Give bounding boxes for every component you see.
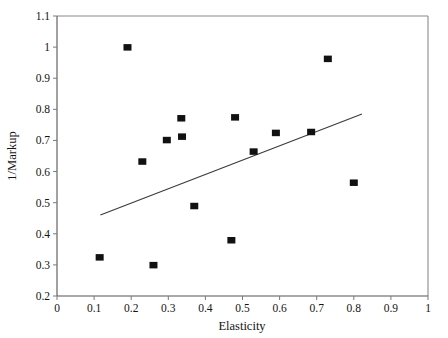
x-tick-label: 0.1 [87, 302, 102, 314]
x-tick-label: 0.9 [384, 302, 399, 314]
x-tick-label: 0.7 [310, 302, 325, 314]
y-tick-label: 0.7 [36, 134, 51, 146]
y-axis-title: 1/Markup [5, 131, 19, 180]
x-tick-label: 0.5 [235, 302, 250, 314]
x-tick-label: 0.2 [124, 302, 139, 314]
data-point-marker [307, 129, 315, 136]
y-tick-label: 0.3 [36, 259, 51, 271]
plot-canvas: 0.20.30.40.50.60.70.80.911.1 00.10.20.30… [0, 0, 448, 338]
x-tick-label: 0.6 [272, 302, 287, 314]
data-point-marker [149, 262, 157, 269]
y-tick-label: 1 [44, 41, 50, 53]
y-axis-ticks: 0.20.30.40.50.60.70.80.911.1 [36, 10, 57, 302]
x-axis-title: Elasticity [218, 319, 266, 333]
data-point-marker [178, 133, 186, 140]
x-tick-label: 1 [425, 302, 431, 314]
data-point-marker [324, 56, 332, 63]
data-point-marker [227, 237, 235, 244]
x-axis-ticks: 00.10.20.30.40.50.60.70.80.91 [54, 296, 431, 314]
x-tick-label: 0.3 [161, 302, 176, 314]
data-markers-group [96, 44, 358, 268]
data-point-marker [123, 44, 131, 51]
y-tick-label: 0.8 [36, 103, 51, 115]
data-point-marker [231, 114, 239, 121]
data-point-marker [190, 203, 198, 210]
data-point-marker [177, 115, 185, 122]
y-tick-label: 0.9 [36, 72, 51, 84]
y-tick-label: 0.6 [36, 166, 51, 178]
data-point-marker [138, 158, 146, 165]
y-tick-label: 1.1 [36, 10, 51, 22]
data-point-marker [163, 137, 171, 144]
plot-frame [57, 16, 428, 296]
x-tick-label: 0 [54, 302, 60, 314]
data-point-marker [96, 254, 104, 261]
y-tick-label: 0.4 [36, 228, 51, 240]
data-point-marker [250, 148, 258, 155]
x-tick-label: 0.8 [347, 302, 362, 314]
scatter-plot-figure: 0.20.30.40.50.60.70.80.911.1 00.10.20.30… [0, 0, 448, 338]
y-tick-label: 0.2 [36, 290, 51, 302]
x-tick-label: 0.4 [198, 302, 213, 314]
y-tick-label: 0.5 [36, 197, 51, 209]
data-point-marker [350, 179, 358, 186]
data-point-marker [272, 130, 280, 137]
